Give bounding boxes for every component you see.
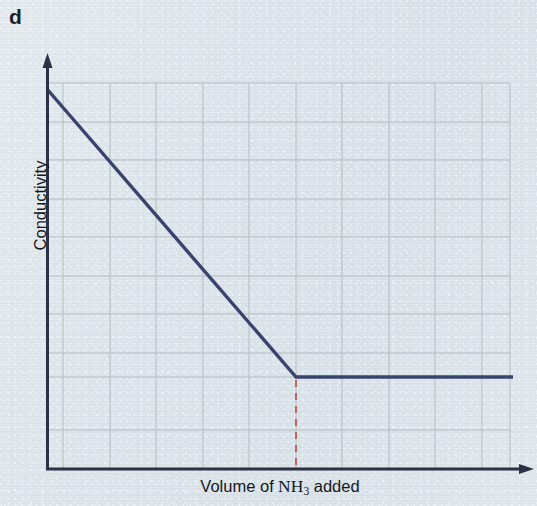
species-symbol: NH <box>278 476 303 496</box>
y-axis-title: Conductivity <box>31 136 50 276</box>
x-axis-arrowhead <box>519 464 534 474</box>
x-axis-title-prefix: Volume of <box>200 477 273 495</box>
grid-lines <box>47 83 510 469</box>
x-axis-title: Volume of NH3 added <box>47 476 513 497</box>
y-axis-arrowhead <box>43 53 53 68</box>
conductivity-curve <box>47 89 513 377</box>
conductivity-titration-figure: d <box>0 0 537 506</box>
plot-area <box>0 0 537 506</box>
x-axis-title-suffix-word: added <box>314 477 360 495</box>
axis-lines <box>43 53 535 474</box>
x-axis-title-species: NH3 <box>274 476 309 496</box>
